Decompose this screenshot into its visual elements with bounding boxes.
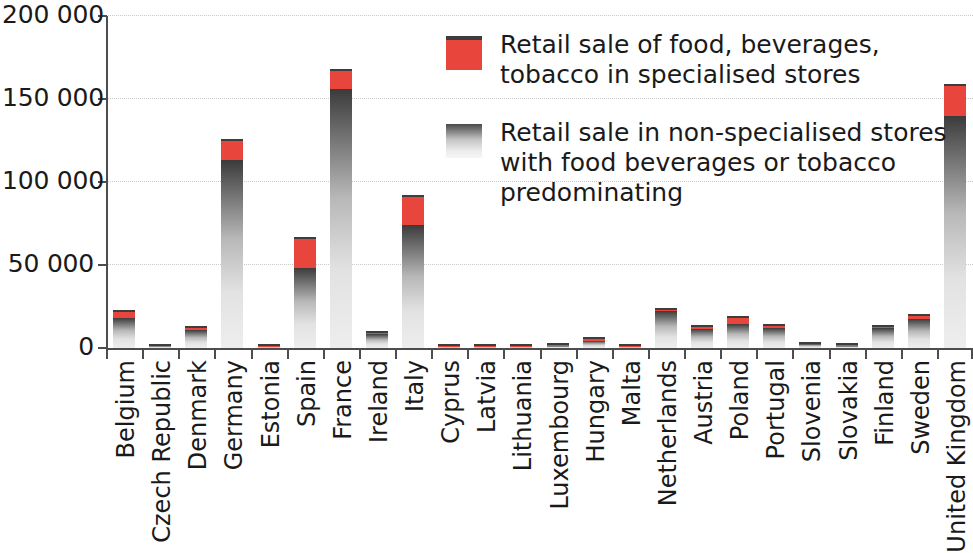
bar-stack[interactable] [438, 344, 460, 348]
bar-segment-non-specialised[interactable] [547, 346, 569, 348]
bar-stack[interactable] [655, 308, 677, 348]
x-tick-mark [323, 350, 325, 359]
x-tick-mark [684, 350, 686, 359]
bar-group[interactable] [258, 16, 280, 348]
bar-stack[interactable] [547, 343, 569, 348]
y-tick-label: 50 000 [0, 251, 94, 277]
x-tick-label-text: Germany [220, 360, 248, 470]
x-tick-label: Netherlands [654, 360, 684, 525]
y-tick-label: 0 [0, 334, 94, 360]
bar-segment-non-specialised[interactable] [619, 347, 641, 349]
bar-segment-specialised[interactable] [294, 237, 316, 269]
x-tick-mark [503, 350, 505, 359]
x-tick-mark [576, 350, 578, 359]
x-tick-label-text: Hungary [582, 360, 610, 462]
x-tick-mark [287, 350, 289, 359]
bar-group[interactable] [185, 16, 207, 348]
y-tick-label: 150 000 [0, 85, 94, 111]
x-tick-label: Hungary [582, 360, 612, 525]
bar-stack[interactable] [510, 344, 532, 348]
bar-stack[interactable] [258, 344, 280, 348]
bar-stack[interactable] [402, 195, 424, 348]
x-tick-mark [792, 350, 794, 359]
legend-item-non-specialised-stores[interactable]: Retail sale in non-specialised stores wi… [446, 118, 966, 208]
y-tick-label-text: 50 000 [2, 251, 94, 276]
bar-stack[interactable] [691, 325, 713, 348]
bar-group[interactable] [113, 16, 135, 348]
bar-segment-specialised[interactable] [402, 195, 424, 225]
x-tick-label: Austria [690, 360, 720, 525]
bar-segment-non-specialised[interactable] [113, 318, 135, 348]
x-tick-mark [829, 350, 831, 359]
x-tick-label: Denmark [184, 360, 214, 525]
bar-group[interactable] [366, 16, 388, 348]
bar-segment-non-specialised[interactable] [727, 324, 749, 348]
bar-segment-non-specialised[interactable] [474, 347, 496, 349]
chart-legend: Retail sale of food, beverages, tobacco … [446, 30, 966, 208]
y-tick-label: 200 000 [0, 2, 94, 28]
bar-stack[interactable] [221, 139, 243, 348]
x-tick-label-text: France [329, 360, 357, 440]
x-tick-mark [720, 350, 722, 359]
bar-segment-non-specialised[interactable] [763, 328, 785, 348]
bar-stack[interactable] [908, 314, 930, 348]
bar-group[interactable] [149, 16, 171, 348]
bar-segment-non-specialised[interactable] [836, 346, 858, 348]
bar-group[interactable] [221, 16, 243, 348]
bar-stack[interactable] [185, 326, 207, 348]
bar-segment-non-specialised[interactable] [185, 330, 207, 348]
bar-stack[interactable] [763, 324, 785, 348]
x-tick-label-text: Cyprus [437, 360, 465, 444]
bar-segment-non-specialised[interactable] [583, 341, 605, 348]
bar-segment-non-specialised[interactable] [402, 225, 424, 348]
bar-stack[interactable] [799, 342, 821, 348]
bar-segment-specialised[interactable] [221, 139, 243, 161]
bar-segment-non-specialised[interactable] [799, 344, 821, 348]
bar-segment-non-specialised[interactable] [691, 329, 713, 348]
legend-item-specialised-stores[interactable]: Retail sale of food, beverages, tobacco … [446, 30, 966, 90]
bar-stack[interactable] [149, 344, 171, 348]
bar-stack[interactable] [366, 331, 388, 348]
bar-segment-non-specialised[interactable] [149, 346, 171, 348]
x-tick-label: Latvia [473, 360, 503, 525]
bar-segment-specialised[interactable] [727, 316, 749, 323]
x-tick-label-text: Latvia [473, 360, 501, 433]
x-tick-label: Germany [220, 360, 250, 525]
x-tick-label-text: Estonia [257, 360, 285, 448]
bar-group[interactable] [294, 16, 316, 348]
bar-stack[interactable] [619, 344, 641, 348]
x-tick-mark [540, 350, 542, 359]
bar-stack[interactable] [113, 310, 135, 348]
x-tick-label: France [329, 360, 359, 525]
x-tick-label-text: Austria [690, 360, 718, 445]
bar-segment-non-specialised[interactable] [872, 328, 894, 348]
bar-group[interactable] [402, 16, 424, 348]
bar-segment-non-specialised[interactable] [258, 347, 280, 349]
bar-segment-non-specialised[interactable] [330, 89, 352, 348]
bar-segment-non-specialised[interactable] [366, 334, 388, 348]
bar-segment-non-specialised[interactable] [294, 268, 316, 348]
bar-stack[interactable] [474, 344, 496, 348]
x-tick-label-text: Netherlands [654, 360, 682, 506]
bar-stack[interactable] [836, 343, 858, 348]
bar-segment-non-specialised[interactable] [510, 347, 532, 349]
x-tick-label: Ireland [365, 360, 395, 525]
x-tick-label-text: Finland [871, 360, 899, 446]
x-tick-label: Spain [293, 360, 323, 525]
bar-segment-non-specialised[interactable] [438, 347, 460, 349]
bar-stack[interactable] [583, 337, 605, 348]
bar-segment-non-specialised[interactable] [655, 311, 677, 348]
bar-stack[interactable] [294, 237, 316, 348]
bar-segment-non-specialised[interactable] [221, 160, 243, 348]
bar-stack[interactable] [727, 316, 749, 348]
bar-segment-non-specialised[interactable] [908, 319, 930, 348]
red-swatch [446, 36, 482, 70]
y-tick-label: 100 000 [0, 168, 94, 194]
bar-stack[interactable] [330, 69, 352, 348]
bar-segment-specialised[interactable] [330, 69, 352, 89]
x-tick-label: Sweden [907, 360, 937, 525]
bar-stack[interactable] [872, 325, 894, 348]
bar-group[interactable] [330, 16, 352, 348]
x-tick-label-text: Italy [401, 360, 429, 412]
bar-segment-specialised[interactable] [113, 310, 135, 318]
